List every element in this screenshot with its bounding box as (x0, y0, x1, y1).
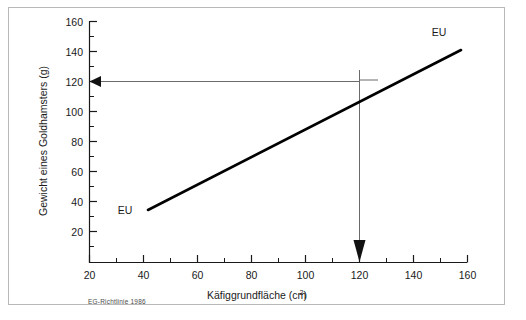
x-axis-title: Käfiggrundfläche (cm 2 ) (207, 289, 307, 301)
x-tick-label: 140 (405, 269, 423, 281)
x-tick-label: 40 (138, 269, 150, 281)
x-tick-label: 160 (459, 269, 477, 281)
x-axis-title-main: Käfiggrundfläche (cm (207, 289, 306, 301)
y-tick-label: 40 (71, 196, 83, 208)
y-tick-label: 120 (65, 76, 83, 88)
y-tick-label: 80 (71, 136, 83, 148)
y-tick-label: 160 (65, 16, 83, 28)
y-tick-label: 20 (71, 226, 83, 238)
x-tick-label: 120 (351, 269, 369, 281)
x-tick-label: 100 (297, 269, 315, 281)
x-tick-label: 60 (192, 269, 204, 281)
y-tick-label: 60 (71, 166, 83, 178)
plot-background (9, 8, 504, 304)
series-label-eu-end: EU (432, 26, 447, 38)
footnote: EG-Richtlinie 1986 (88, 298, 146, 304)
x-tick-label: 20 (84, 269, 96, 281)
x-axis-title-tail: ) (304, 289, 308, 301)
y-tick-label: 140 (65, 46, 83, 58)
y-axis-title: Gewicht eines Goldhamsters (g) (37, 66, 49, 216)
figure-frame: 160 140 120 100 80 60 40 20 Gewicht eine… (8, 7, 505, 305)
chart-canvas: 160 140 120 100 80 60 40 20 Gewicht eine… (9, 8, 504, 304)
series-label-eu-start: EU (118, 204, 133, 216)
y-tick-label: 100 (65, 106, 83, 118)
x-tick-label: 80 (246, 269, 258, 281)
